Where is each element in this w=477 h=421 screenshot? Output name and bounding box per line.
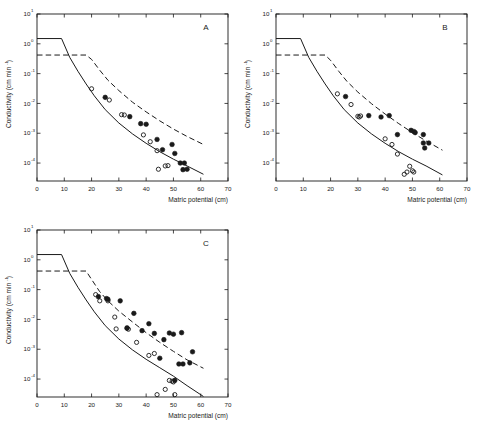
x-tick-label: 60 — [436, 185, 443, 192]
filled-circle-datapoint — [160, 147, 165, 152]
open-circle-datapoint — [98, 299, 102, 303]
open-circle-datapoint — [383, 137, 387, 141]
svg-text:10: 10 — [24, 256, 31, 263]
svg-text:-4: -4 — [270, 157, 274, 162]
svg-text:10: 10 — [24, 345, 31, 352]
filled-circle-datapoint — [162, 337, 167, 342]
svg-text:1: 1 — [270, 8, 273, 13]
panel-b-plot: 01020304050607010110010-110-210-310-4Mat… — [239, 0, 477, 205]
panel-letter: B — [442, 23, 447, 32]
y-tick-label: 10-3 — [263, 128, 275, 137]
svg-text:-3: -3 — [31, 344, 35, 349]
svg-text:10: 10 — [24, 100, 31, 107]
plot-frame — [276, 14, 467, 181]
open-circle-datapoint — [166, 164, 170, 168]
filled-circle-datapoint — [343, 94, 348, 99]
filled-circle-datapoint — [185, 167, 190, 172]
plot-frame — [37, 14, 228, 181]
dashed-model-curve — [276, 55, 442, 150]
filled-circle-datapoint — [96, 294, 101, 299]
x-axis-title: Matric potential (cm) — [168, 412, 228, 420]
filled-circle-datapoint — [147, 321, 152, 326]
svg-text:-4: -4 — [31, 373, 35, 378]
open-circle-datapoint — [390, 142, 394, 146]
svg-text:10: 10 — [24, 40, 31, 47]
y-tick-label: 10-4 — [24, 373, 36, 382]
filled-circle-datapoint — [152, 331, 157, 336]
svg-text:10: 10 — [24, 70, 31, 77]
svg-text:Conductivity (cm min: Conductivity (cm min — [244, 67, 252, 129]
panel-a-plot: 01020304050607010110010-110-210-310-4Mat… — [0, 0, 238, 205]
svg-text:10: 10 — [263, 10, 270, 17]
svg-text:0: 0 — [31, 38, 34, 43]
svg-text:-2: -2 — [31, 314, 35, 319]
filled-circle-datapoint — [379, 115, 384, 120]
x-tick-label: 50 — [170, 401, 177, 408]
open-circle-datapoint — [349, 102, 353, 106]
svg-text:): ) — [5, 60, 13, 62]
x-tick-label: 70 — [464, 185, 471, 192]
svg-text:10: 10 — [24, 129, 31, 136]
panel-b: 01020304050607010110010-110-210-310-4Mat… — [239, 0, 477, 205]
x-tick-label: 20 — [327, 185, 334, 192]
filled-circle-datapoint — [138, 121, 143, 126]
x-tick-label: 30 — [354, 185, 361, 192]
open-circle-datapoint — [335, 92, 339, 96]
open-circle-datapoint — [152, 351, 156, 355]
x-tick-label: 30 — [115, 401, 122, 408]
y-tick-label: 10-2 — [24, 98, 36, 107]
y-tick-label: 10-3 — [24, 344, 36, 353]
x-tick-label: 20 — [88, 185, 95, 192]
filled-circle-datapoint — [421, 132, 426, 137]
x-tick-label: 0 — [274, 185, 278, 192]
svg-text:): ) — [244, 60, 252, 62]
y-tick-label: 10-2 — [24, 314, 36, 323]
panel-c: 01020304050607010110010-110-210-310-4Mat… — [0, 206, 238, 421]
y-tick-label: 10-1 — [24, 284, 36, 293]
filled-circle-datapoint — [387, 113, 392, 118]
x-tick-label: 70 — [225, 401, 232, 408]
svg-text:-1: -1 — [31, 68, 35, 73]
x-tick-label: 0 — [35, 185, 39, 192]
y-tick-label: 100 — [24, 254, 34, 263]
svg-text:0: 0 — [270, 38, 273, 43]
open-circle-datapoint — [408, 164, 412, 168]
open-circle-datapoint — [402, 172, 406, 176]
filled-circle-datapoint — [427, 141, 432, 146]
filled-circle-datapoint — [421, 141, 426, 146]
svg-text:1: 1 — [31, 224, 34, 229]
x-tick-label: 10 — [61, 185, 68, 192]
filled-circle-datapoint — [422, 146, 427, 151]
svg-text:Conductivity (cm min: Conductivity (cm min — [5, 283, 13, 345]
filled-circle-datapoint — [413, 130, 418, 135]
y-axis-title: Conductivity (cm min-1) — [243, 60, 252, 128]
y-tick-label: 100 — [24, 38, 34, 47]
x-tick-label: 50 — [170, 185, 177, 192]
svg-text:-2: -2 — [31, 98, 35, 103]
filled-circle-datapoint — [118, 299, 123, 304]
filled-circle-datapoint — [172, 151, 177, 156]
panel-letter: C — [203, 239, 209, 248]
open-circle-datapoint — [141, 133, 145, 137]
svg-text:0: 0 — [31, 254, 34, 259]
svg-text:10: 10 — [24, 159, 31, 166]
filled-circle-datapoint — [366, 113, 371, 118]
x-tick-label: 60 — [197, 185, 204, 192]
svg-text:10: 10 — [24, 226, 31, 233]
filled-circle-datapoint — [127, 114, 132, 119]
y-tick-label: 10-1 — [24, 68, 36, 77]
filled-circle-datapoint — [170, 142, 175, 147]
filled-circle-datapoint — [179, 330, 184, 335]
filled-circle-datapoint — [155, 137, 160, 142]
svg-text:): ) — [5, 276, 13, 278]
y-tick-label: 100 — [263, 38, 273, 47]
x-tick-label: 40 — [143, 401, 150, 408]
filled-circle-datapoint — [144, 122, 149, 127]
panel-c-plot: 01020304050607010110010-110-210-310-4Mat… — [0, 206, 238, 421]
filled-circle-datapoint — [395, 132, 400, 137]
filled-circle-datapoint — [190, 350, 195, 355]
y-tick-label: 101 — [263, 8, 273, 17]
open-circle-datapoint — [107, 98, 111, 102]
y-tick-label: 101 — [24, 224, 34, 233]
x-tick-label: 40 — [382, 185, 389, 192]
